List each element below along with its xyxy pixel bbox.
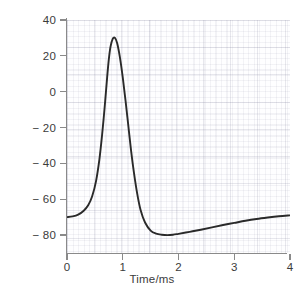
x-tick-mark	[289, 254, 290, 260]
x-axis-title: Time/ms	[0, 273, 304, 285]
y-tick-label: − 20	[32, 122, 56, 134]
curve-svg	[67, 20, 290, 253]
y-axis-spine	[66, 18, 67, 257]
x-tick-label: 2	[175, 261, 182, 273]
x-tick-label: 3	[231, 261, 238, 273]
y-tick-mark	[60, 19, 66, 20]
x-axis-spine	[66, 253, 287, 254]
y-tick-label: 20	[43, 50, 56, 62]
plot-area	[67, 20, 290, 253]
action-potential-chart: Time/ms Potential difference/mV 40200− 2…	[0, 0, 304, 288]
x-tick-label: 1	[119, 261, 126, 273]
x-tick-mark	[178, 254, 179, 260]
y-tick-mark	[60, 127, 66, 128]
y-tick-mark	[60, 163, 66, 164]
y-tick-mark	[60, 234, 66, 235]
x-tick-label: 0	[64, 261, 71, 273]
y-tick-label: − 40	[32, 157, 56, 169]
x-tick-label: 4	[287, 261, 294, 273]
y-tick-mark	[60, 199, 66, 200]
y-tick-mark	[60, 55, 66, 56]
y-tick-mark	[60, 91, 66, 92]
x-tick-mark	[234, 254, 235, 260]
x-tick-mark	[66, 254, 67, 260]
y-tick-label: 40	[43, 14, 56, 26]
y-tick-label: 0	[49, 86, 56, 98]
y-tick-label: − 80	[32, 229, 56, 241]
action-potential-curve	[67, 37, 290, 235]
x-tick-mark	[122, 254, 123, 260]
y-tick-label: − 60	[32, 193, 56, 205]
